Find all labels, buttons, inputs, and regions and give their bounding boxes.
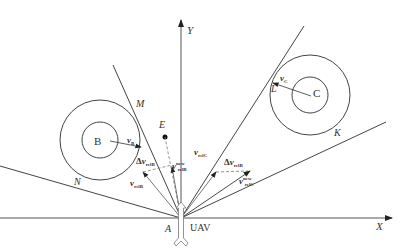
point-m-label: M xyxy=(135,98,145,109)
x-axis-label: X xyxy=(375,220,384,232)
cone-b-upper-line xyxy=(113,65,181,218)
dv-relB-label: ΔvrelB xyxy=(136,156,155,167)
v-b-arrow xyxy=(110,141,141,147)
point-l-label: L xyxy=(270,83,277,94)
origin-a-label: A xyxy=(164,223,172,234)
obstacle-c-outer-circle xyxy=(270,55,350,135)
point-n-label: N xyxy=(73,176,82,187)
obstacle-c-inner-circle xyxy=(292,77,328,113)
obstacle-c-label: C xyxy=(313,87,320,99)
y-axis-label: Y xyxy=(187,24,195,36)
collision-cone-diagram: Y X B vB M N C vC L K E vrelB ΔvrelB vne… xyxy=(0,0,411,252)
v-relB-label: vrelB xyxy=(130,178,144,189)
point-k-label: K xyxy=(333,127,342,138)
v-c-label: vC xyxy=(280,73,288,84)
uav-label: UAV xyxy=(190,222,211,233)
v-relB-arrow xyxy=(143,172,181,218)
dv-relC-dashed xyxy=(216,171,248,172)
v-relC-new-label: vnewrelC xyxy=(239,176,254,187)
v-b-label: vB xyxy=(127,135,135,146)
cone-b-lower-line xyxy=(0,166,181,218)
uav-icon xyxy=(174,202,188,246)
v-relB-new-label: vnewrelB xyxy=(172,161,187,172)
dv-relC-label: ΔvrelB xyxy=(224,157,243,168)
obstacle-b-label: B xyxy=(94,135,101,147)
v-relC-arrow xyxy=(181,172,216,218)
v-relC-label: vrelC xyxy=(194,147,208,158)
target-e-label: E xyxy=(158,119,165,130)
